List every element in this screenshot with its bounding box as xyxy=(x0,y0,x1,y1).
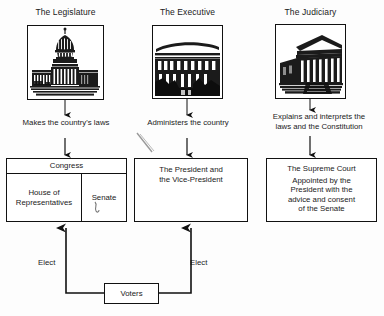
voters-box: Voters xyxy=(104,283,159,304)
us-capitol-building-image xyxy=(27,25,104,100)
column-title-executive: The Executive xyxy=(130,7,245,17)
elect-label-left: Elect xyxy=(38,258,55,267)
supreme-court-icon xyxy=(276,25,345,98)
congress-box: Congress House of Representatives Senate xyxy=(6,158,127,222)
column-title-judiciary: The Judiciary xyxy=(253,7,368,17)
column-title-legislature: The Legislature xyxy=(8,7,123,17)
supreme-court-line4: advice and consent xyxy=(267,195,376,205)
stray-pencil-mark-executive xyxy=(137,133,152,152)
diagram-canvas: The Legislature The Executive The Judici… xyxy=(0,0,384,316)
senate-cell: Senate xyxy=(82,174,126,221)
house-of-representatives-cell: House of Representatives xyxy=(7,174,81,221)
house-of-representatives-label: House of Representatives xyxy=(16,188,72,207)
president-label-line1: The President and xyxy=(135,165,247,175)
caption-judiciary-line1: Explains and interprets the xyxy=(256,112,382,122)
caption-judiciary: Explains and interprets the laws and the… xyxy=(256,112,382,131)
house-label-line2: Representatives xyxy=(16,198,72,207)
president-box: The President and the Vice-President xyxy=(134,158,248,222)
supreme-court-line3: President with the xyxy=(267,185,376,195)
congress-header-label: Congress xyxy=(50,161,83,171)
elect-label-right: Elect xyxy=(190,258,207,267)
white-house-building-image xyxy=(152,25,223,99)
house-label-line1: House of xyxy=(28,188,59,197)
supreme-court-label: The Supreme Court Appointed by the Presi… xyxy=(267,159,376,214)
caption-judiciary-line2: laws and the Constitution xyxy=(256,122,382,132)
arrow-voters-elect-congress xyxy=(66,228,104,293)
supreme-court-line5: of the Senate xyxy=(267,204,376,214)
caption-executive: Administers the country xyxy=(128,118,248,128)
white-house-icon xyxy=(153,26,222,98)
voters-label: Voters xyxy=(120,289,142,299)
senate-label: Senate xyxy=(92,193,117,203)
arrow-voters-elect-president xyxy=(159,228,191,293)
supreme-court-building-image xyxy=(275,24,346,99)
president-label-line2: the Vice-President xyxy=(135,175,247,185)
stray-pencil-mark-executive-2 xyxy=(140,134,154,151)
supreme-court-line1: The Supreme Court xyxy=(267,164,376,174)
capitol-icon xyxy=(28,26,103,99)
supreme-court-box: The Supreme Court Appointed by the Presi… xyxy=(266,158,377,222)
supreme-court-line2: Appointed by the xyxy=(267,176,376,186)
caption-legislature: Makes the country's laws xyxy=(2,118,130,128)
congress-header: Congress xyxy=(7,159,126,174)
president-label: The President and the Vice-President xyxy=(135,159,247,184)
